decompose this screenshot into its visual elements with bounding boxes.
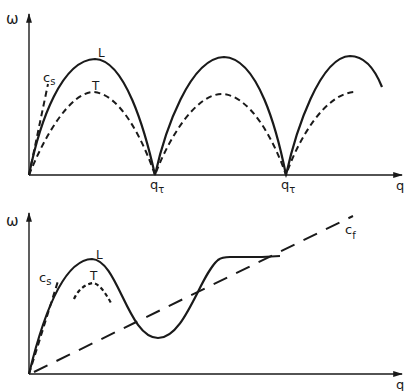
bottom-cs-line: [29, 281, 58, 374]
bottom-L-label: L: [96, 248, 103, 262]
top-y-axis-label: ω: [6, 10, 19, 28]
bottom-panel: ω q L T cs cf: [6, 212, 404, 391]
top-T-curve: [29, 92, 355, 175]
top-x-axis-label: q: [396, 178, 404, 193]
bottom-cs-label: cs: [39, 270, 51, 287]
top-panel: ω q L T cs qτ qτ: [6, 10, 404, 195]
bottom-cf-line: [34, 216, 353, 372]
bottom-T-curve: [74, 283, 111, 303]
top-tick-q-tau-1: qτ: [150, 177, 164, 195]
bottom-cf-label: cf: [345, 222, 356, 241]
top-L-label: L: [98, 46, 105, 60]
top-cs-line: [29, 84, 48, 175]
bottom-x-axis-label: q: [396, 377, 404, 391]
bottom-y-axis-label: ω: [6, 212, 19, 230]
top-tick-q-tau-2: qτ: [281, 177, 295, 195]
top-L-curve: [29, 56, 382, 175]
dispersion-diagram: ω q L T cs qτ qτ ω q L T cs cf: [0, 0, 418, 391]
top-T-label: T: [91, 79, 100, 93]
bottom-T-label: T: [89, 269, 98, 283]
top-cs-label: cs: [43, 70, 55, 87]
